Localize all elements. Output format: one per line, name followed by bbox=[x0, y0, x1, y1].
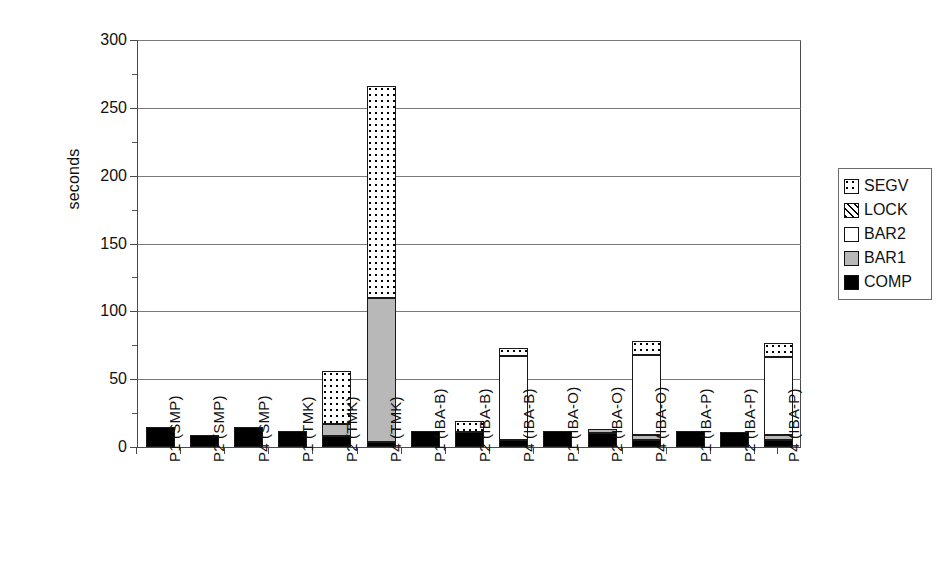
legend-item-comp[interactable]: COMP bbox=[844, 270, 926, 294]
x-tick-label: P2 (TMK) bbox=[343, 342, 360, 462]
legend-label: BAR1 bbox=[864, 250, 906, 266]
x-tick-label: P4 (TMK) bbox=[387, 342, 404, 462]
y-tick-label: 150 bbox=[81, 236, 127, 252]
y-tick-mark bbox=[130, 311, 137, 312]
x-tick-label: P1 (TMK) bbox=[299, 342, 316, 462]
y-tick-label: 200 bbox=[81, 168, 127, 184]
gridline bbox=[138, 176, 801, 177]
gridline bbox=[138, 311, 801, 312]
y-tick-mark bbox=[130, 244, 137, 245]
legend-label: SEGV bbox=[864, 178, 908, 194]
x-tick-label: P4 (IBA-B) bbox=[520, 342, 537, 462]
x-tick-label: P2 (IBA-P) bbox=[741, 342, 758, 462]
x-tick-label: P4 (SMP) bbox=[255, 342, 272, 462]
legend-item-bar1[interactable]: BAR1 bbox=[844, 246, 926, 270]
legend-swatch-segv-icon bbox=[844, 179, 859, 194]
legend-swatch-bar2-icon bbox=[844, 227, 859, 242]
y-tick-label: 0 bbox=[81, 439, 127, 455]
gridline bbox=[138, 244, 801, 245]
y-tick-label: 50 bbox=[81, 371, 127, 387]
legend-item-segv[interactable]: SEGV bbox=[844, 174, 926, 198]
legend-label: COMP bbox=[864, 274, 912, 290]
legend-swatch-comp-icon bbox=[844, 275, 859, 290]
legend-swatch-bar1-icon bbox=[844, 251, 859, 266]
y-tick-mark bbox=[130, 40, 137, 41]
legend-item-bar2[interactable]: BAR2 bbox=[844, 222, 926, 246]
x-tick-label: P1 (IBA-O) bbox=[564, 342, 581, 462]
gridline bbox=[138, 40, 801, 41]
x-tick-label: P2 (SMP) bbox=[210, 342, 227, 462]
x-tick-mark bbox=[777, 447, 778, 454]
legend: SEGVLOCKBAR2BAR1COMP bbox=[838, 168, 932, 300]
x-tick-label: P1 (IBA-P) bbox=[697, 342, 714, 462]
y-tick-mark bbox=[130, 379, 137, 380]
legend-label: BAR2 bbox=[864, 226, 906, 242]
legend-item-lock[interactable]: LOCK bbox=[844, 198, 926, 222]
x-tick-label: P2 (IBA-O) bbox=[608, 342, 625, 462]
x-tick-label: P2 (IBA-B) bbox=[476, 342, 493, 462]
bar-chart-figure: seconds 050100150200250300 P1 (SMP)P2 (S… bbox=[0, 0, 942, 585]
x-tick-label: P1 (IBA-B) bbox=[431, 342, 448, 462]
y-tick-mark bbox=[130, 176, 137, 177]
bar-segment-segv bbox=[367, 86, 396, 298]
x-tick-label: P4 (IBA-P) bbox=[785, 342, 802, 462]
legend-label: LOCK bbox=[864, 202, 908, 218]
y-tick-label: 100 bbox=[81, 303, 127, 319]
y-tick-label: 250 bbox=[81, 100, 127, 116]
legend-swatch-lock-icon bbox=[844, 203, 859, 218]
x-tick-mark bbox=[136, 447, 137, 454]
y-tick-mark bbox=[130, 108, 137, 109]
gridline bbox=[138, 108, 801, 109]
x-tick-label: P4 (IBA-O) bbox=[652, 342, 669, 462]
x-tick-label: P1 (SMP) bbox=[166, 342, 183, 462]
y-tick-label: 300 bbox=[81, 32, 127, 48]
